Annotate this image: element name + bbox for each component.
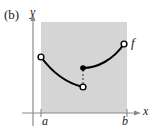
x-tick-label-b: b (122, 115, 128, 127)
open-circle-left-endpoint (38, 54, 44, 60)
open-circle-right-endpoint (121, 41, 127, 47)
figure-panel-b: (b) y x a b f (0, 0, 153, 138)
graph-canvas (0, 0, 153, 138)
curve-label-f: f (131, 36, 135, 49)
open-circle-left-branch-end (80, 84, 86, 90)
x-axis-arrowhead (134, 110, 141, 115)
x-tick-label-a: a (42, 115, 48, 127)
filled-circle-right-branch-start (80, 65, 86, 71)
x-axis-label: x (143, 105, 148, 117)
panel-label: (b) (4, 8, 19, 21)
y-axis-label: y (30, 6, 35, 18)
